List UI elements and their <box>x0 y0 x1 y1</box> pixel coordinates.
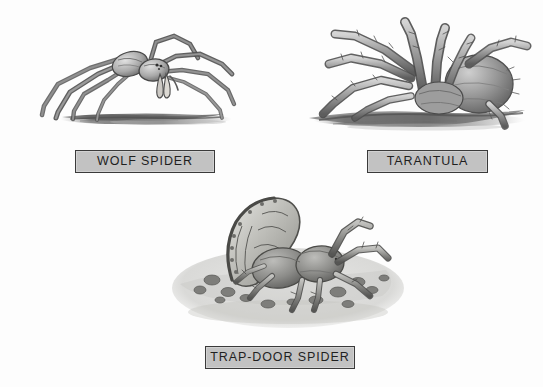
wolf-spider-illustration <box>18 18 258 140</box>
ground-mound-tarantula <box>309 110 525 131</box>
label-trap-door-spider: TRAP-DOOR SPIDER <box>205 346 355 369</box>
label-tarantula: TARANTULA <box>367 150 488 173</box>
ground-shadow-wolf <box>60 114 232 126</box>
label-wolf-spider: WOLF SPIDER <box>75 150 215 173</box>
tarantula-illustration <box>293 8 537 140</box>
label-tarantula-text: TARANTULA <box>387 155 469 168</box>
label-trap-door-spider-text: TRAP-DOOR SPIDER <box>210 351 349 364</box>
tarantula-cephalothorax <box>415 82 463 114</box>
label-wolf-spider-text: WOLF SPIDER <box>97 155 193 168</box>
illustration-plate: WOLF SPIDER <box>0 0 543 387</box>
trap-door-spider-illustration <box>172 192 404 337</box>
